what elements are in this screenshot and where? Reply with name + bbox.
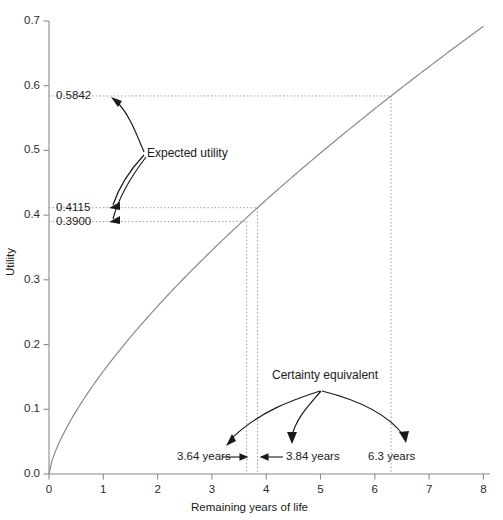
arrowhead-0.3900 bbox=[109, 216, 120, 224]
expected-utility-label: Expected utility bbox=[147, 147, 228, 159]
y-axis-ticks bbox=[44, 21, 50, 474]
value-label-upper: 0.5842 bbox=[56, 90, 91, 102]
value-label-middle: 0.4115 bbox=[56, 202, 90, 214]
x-tick-5: 5 bbox=[311, 484, 331, 496]
x-tick-8: 8 bbox=[473, 484, 493, 496]
utility-curve-line bbox=[49, 26, 483, 474]
expected-utility-arrows bbox=[113, 100, 146, 219]
certainty-equivalent-label: Certainty equivalent bbox=[272, 369, 378, 381]
x-axis-title: Remaining years of life bbox=[191, 502, 308, 514]
measure-arrow-right-head bbox=[261, 454, 268, 460]
y-tick-0.6: 0.6 bbox=[14, 80, 40, 92]
ce-label-right: 6.3 years bbox=[368, 451, 415, 463]
x-tick-1: 1 bbox=[93, 484, 113, 496]
x-tick-6: 6 bbox=[365, 484, 385, 496]
arrowhead-6.3 bbox=[399, 431, 409, 443]
ce-label-left: 3.64 years bbox=[177, 451, 231, 463]
certainty-equivalent-arrows bbox=[230, 391, 404, 440]
x-tick-3: 3 bbox=[202, 484, 222, 496]
arrow-to-0.5842 bbox=[115, 100, 144, 152]
x-tick-7: 7 bbox=[419, 484, 439, 496]
utility-curve-chart: 0.7 0.6 0.5 0.4 0.3 0.2 0.1 0.0 0 1 2 3 … bbox=[0, 0, 503, 520]
ce-label-middle: 3.84 years bbox=[286, 451, 340, 463]
y-tick-0.0: 0.0 bbox=[14, 468, 40, 480]
axis-lines bbox=[49, 21, 490, 474]
arrow-to-6.3 bbox=[322, 391, 404, 436]
certainty-equivalent-arrowheads bbox=[226, 431, 409, 446]
y-tick-0.7: 0.7 bbox=[14, 15, 40, 27]
y-tick-0.1: 0.1 bbox=[14, 403, 40, 415]
y-tick-0.4: 0.4 bbox=[14, 209, 40, 221]
x-tick-0: 0 bbox=[39, 484, 59, 496]
x-tick-2: 2 bbox=[148, 484, 168, 496]
y-axis-title-wrap: Utility bbox=[2, 232, 18, 292]
plot-canvas bbox=[0, 0, 503, 520]
x-axis-ticks bbox=[49, 474, 483, 480]
value-label-lower: 0.3900 bbox=[56, 216, 91, 228]
arrowhead-0.4115 bbox=[109, 202, 120, 210]
ce-measure-arrows bbox=[222, 454, 283, 460]
arrow-to-3.64 bbox=[230, 391, 320, 440]
arrow-to-0.4115 bbox=[113, 155, 144, 205]
x-tick-4: 4 bbox=[256, 484, 276, 496]
y-axis-title: Utility bbox=[4, 248, 16, 276]
arrow-to-0.3900 bbox=[113, 157, 146, 219]
arrowhead-3.84 bbox=[287, 432, 297, 444]
arrow-to-3.84 bbox=[292, 391, 321, 436]
expected-utility-arrowheads bbox=[109, 97, 122, 224]
measure-arrow-left-head bbox=[240, 454, 247, 460]
y-tick-0.2: 0.2 bbox=[14, 339, 40, 351]
y-tick-0.5: 0.5 bbox=[14, 144, 40, 156]
